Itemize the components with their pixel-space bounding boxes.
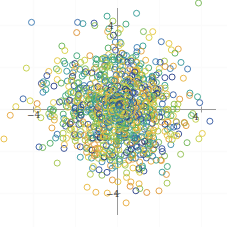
tick-labels: −4 4 4 −4	[0, 0, 227, 227]
y-tick-label-neg4: −4	[106, 190, 119, 199]
y-tick-label-pos4: 4	[108, 22, 114, 31]
scatter-chart: −4 4 4 −4	[0, 0, 227, 227]
x-tick-label-neg4: −4	[27, 111, 40, 120]
x-tick-label-pos4: 4	[193, 113, 199, 122]
